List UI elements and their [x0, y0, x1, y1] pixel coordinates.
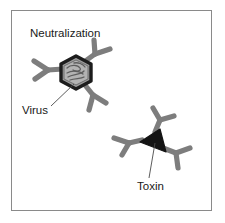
toxin-complex: Toxin: [114, 108, 190, 192]
virus-leader-line: [51, 84, 74, 106]
toxin-leader-line: [149, 143, 155, 178]
antibody-virus-left: [34, 61, 63, 79]
toxin-label: Toxin: [137, 180, 164, 192]
antibody-toxin-right: [163, 148, 190, 168]
antibody-toxin-top: [153, 108, 174, 132]
neutralization-figure: Virus: [0, 0, 225, 223]
virus-complex: Virus: [22, 40, 110, 116]
virus-label: Virus: [22, 104, 48, 116]
antibody-virus-upper-right: [84, 40, 110, 62]
figure-artwork: Virus: [0, 0, 225, 223]
antibody-virus-lower-right: [85, 85, 106, 110]
figure-title: Neutralization: [30, 27, 100, 39]
antibody-toxin-left: [114, 138, 142, 155]
